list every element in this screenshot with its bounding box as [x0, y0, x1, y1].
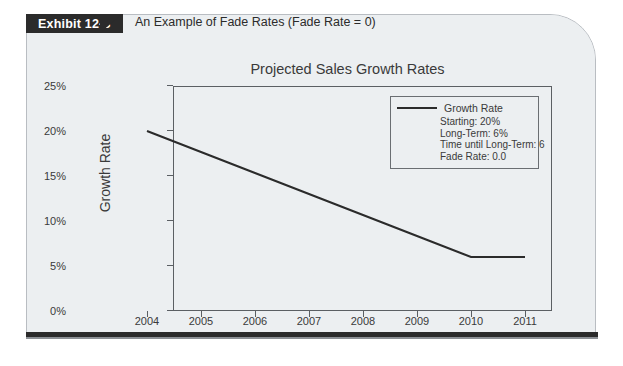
chart-legend: Growth Rate Starting: 20% Long-Term: 6% … — [390, 96, 539, 169]
legend-series-name: Growth Rate — [444, 102, 503, 114]
bottom-rule-shadow — [26, 337, 598, 339]
x-tick-label-3: 2007 — [287, 315, 331, 327]
x-tick-label-0: 2004 — [125, 315, 169, 327]
exhibit-title: An Example of Fade Rates (Fade Rate = 0) — [135, 15, 376, 29]
x-tick-label-5: 2009 — [395, 315, 439, 327]
legend-entry-growth-rate: Growth Rate — [391, 97, 538, 114]
legend-annotations: Starting: 20% Long-Term: 6% Time until L… — [391, 114, 538, 162]
legend-long-term: Long-Term: 6% — [440, 128, 538, 140]
x-tick-label-7: 2011 — [503, 315, 547, 327]
legend-starting: Starting: 20% — [440, 116, 538, 128]
growth-rate-line-chart — [27, 15, 596, 334]
x-tick-label-2: 2006 — [233, 315, 277, 327]
exhibit-figure: Projected Sales Growth Rates Growth Rate… — [0, 0, 623, 366]
exhibit-tab-wedge — [100, 14, 122, 33]
legend-line-swatch-icon — [397, 107, 437, 109]
x-tick-label-6: 2010 — [449, 315, 493, 327]
legend-fade-rate: Fade Rate: 0.0 — [440, 151, 538, 163]
exhibit-card: Projected Sales Growth Rates Growth Rate… — [26, 14, 596, 334]
legend-time-until-long-term: Time until Long-Term: 6 — [440, 139, 538, 151]
x-tick-label-1: 2005 — [179, 315, 223, 327]
x-tick-label-4: 2008 — [341, 315, 385, 327]
